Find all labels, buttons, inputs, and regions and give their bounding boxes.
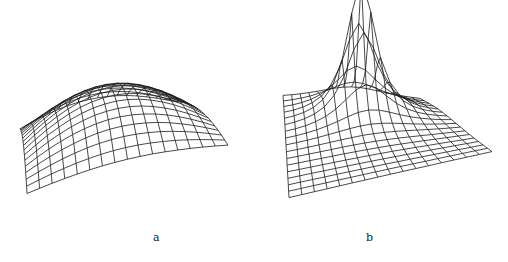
surface-b-grid-line-u (287, 135, 469, 166)
surface-a-grid-line-u (22, 84, 189, 134)
surface-b-grid-line-v (334, 60, 365, 180)
panel-label-b: b (366, 231, 373, 244)
surface-b-grid-line-u (288, 138, 475, 172)
surface-a-grid-line-u (21, 88, 182, 130)
surface-b-grid-line-v (420, 98, 492, 151)
surface-plot-a (20, 83, 228, 193)
surface-a-grid-line-u (24, 99, 208, 155)
surface-a-grid-line-v (78, 91, 102, 166)
surface-a-grid-line-u (25, 106, 212, 160)
surface-plot-b (283, 0, 492, 198)
surface-b-grid-line-v (292, 95, 302, 195)
surface-a-grid-line-v (165, 98, 215, 146)
figure-canvas (0, 0, 508, 262)
surface-a-grid-line-u (22, 83, 191, 135)
surface-b-grid-line-v (283, 95, 289, 197)
surface-a-grid-line-v (39, 115, 52, 183)
panel-label-a: a (153, 231, 160, 244)
